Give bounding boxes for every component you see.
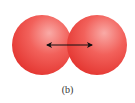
figure-caption: (b)	[0, 84, 135, 96]
molecule-diagram: (b)	[0, 0, 135, 103]
